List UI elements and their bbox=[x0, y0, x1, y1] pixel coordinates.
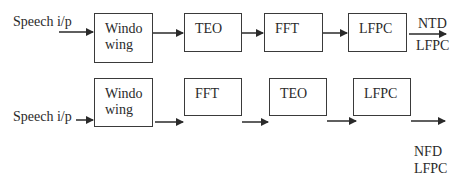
block-label: LFPC bbox=[359, 21, 392, 37]
output-label-nfd: NFD bbox=[414, 144, 442, 160]
block-label: FFT bbox=[195, 86, 219, 102]
block-label: TEO bbox=[280, 86, 307, 102]
output-label-lfpc-row2: LFPC bbox=[414, 161, 447, 177]
teo-block-row2: TEO bbox=[269, 78, 327, 116]
lfpc-block-row2: LFPC bbox=[353, 78, 411, 116]
windowing-block-row1: Windo wing bbox=[94, 13, 153, 63]
teo-block-row1: TEO bbox=[184, 13, 242, 52]
block-label: FFT bbox=[275, 21, 299, 37]
block-label: TEO bbox=[195, 21, 222, 37]
lfpc-block-row1: LFPC bbox=[348, 13, 407, 52]
output-label-ntd: NTD bbox=[418, 16, 447, 32]
block-label: Windo wing bbox=[105, 21, 143, 53]
input-label-row2: Speech i/p bbox=[13, 109, 72, 125]
fft-block-row2: FFT bbox=[184, 78, 242, 116]
block-label: LFPC bbox=[364, 86, 397, 102]
fft-block-row1: FFT bbox=[264, 13, 323, 52]
input-label-row1: Speech i/p bbox=[13, 14, 72, 30]
block-label: Windo wing bbox=[105, 86, 143, 118]
windowing-block-row2: Windo wing bbox=[94, 78, 153, 127]
output-label-lfpc-row1: LFPC bbox=[416, 38, 449, 54]
